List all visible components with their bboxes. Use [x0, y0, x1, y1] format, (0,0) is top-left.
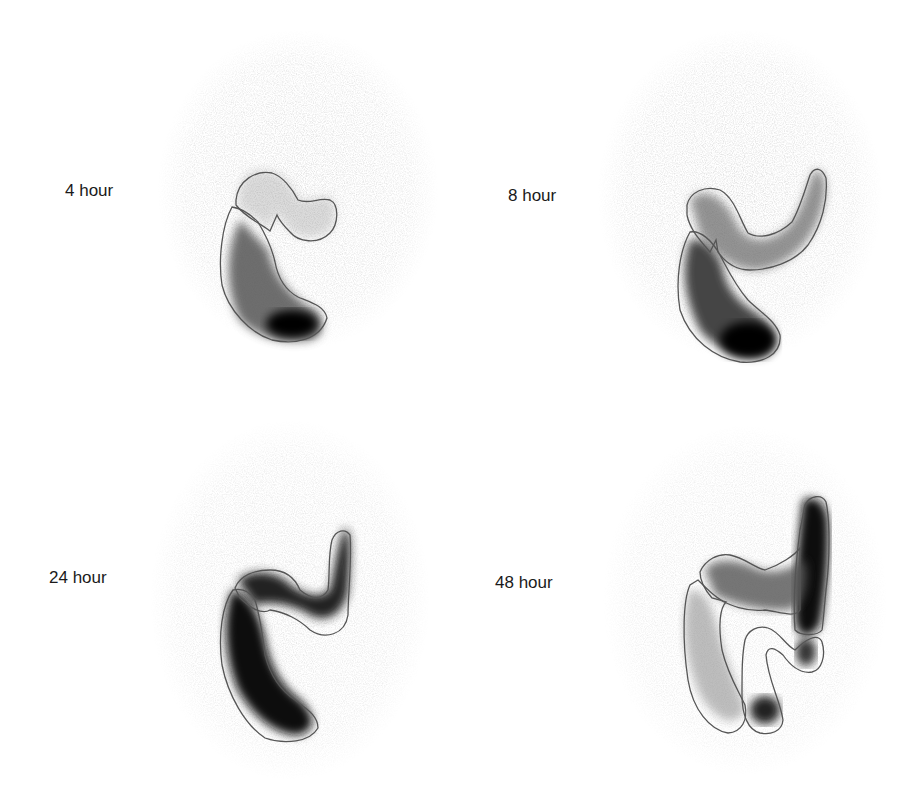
panel-8-hour — [598, 30, 882, 362]
panel-label-24-hour: 24 hour — [49, 568, 107, 588]
panel-label-4-hour: 4 hour — [65, 181, 113, 201]
panel-label-48-hour: 48 hour — [495, 573, 553, 593]
panel-24-hour — [150, 420, 430, 780]
panel-label-8-hour: 8 hour — [508, 186, 556, 206]
panel-4-hour — [158, 30, 438, 350]
scintigraphy-figure — [0, 0, 915, 790]
panel-48-hour — [603, 425, 887, 775]
